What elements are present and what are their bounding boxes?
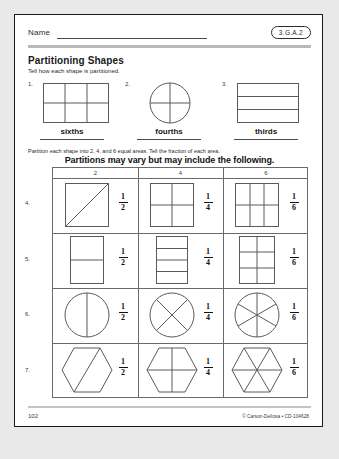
circle-x-quarters-icon xyxy=(149,292,195,338)
exercise-2-answer-rule xyxy=(137,139,201,140)
rect-4-bands-icon xyxy=(156,236,188,284)
fraction-r7-c6: 1 6 xyxy=(287,358,301,377)
hexagon-diagonal-icon xyxy=(61,347,113,393)
page-subtitle: Tell how each shape is partitioned. xyxy=(28,68,120,74)
fraction-denominator: 6 xyxy=(287,259,301,267)
exercise-3-number: 3. xyxy=(222,81,227,87)
exercise-1-answer: sixths xyxy=(28,127,116,136)
standard-badge: 3.G.A.2 xyxy=(271,26,311,39)
fraction-denominator: 4 xyxy=(201,259,215,267)
rectangle-3-bands-icon xyxy=(237,83,299,123)
fraction-denominator: 4 xyxy=(201,369,215,377)
column-header-4: 4 xyxy=(138,168,223,178)
fraction-numerator: 1 xyxy=(201,303,215,311)
column-header-6: 6 xyxy=(223,168,309,178)
exercise-1-number: 1. xyxy=(28,81,33,87)
page-number: 102 xyxy=(28,413,38,419)
cell-r4-c4: 1 4 xyxy=(138,178,223,233)
fraction-r4-c6: 1 6 xyxy=(287,193,301,212)
cell-r4-c2: 1 2 xyxy=(53,178,138,233)
header-divider xyxy=(28,45,311,48)
name-row: Name 3.G.A.2 xyxy=(28,28,311,42)
fraction-numerator: 1 xyxy=(201,248,215,256)
circle-halves-icon xyxy=(64,292,110,338)
fraction-numerator: 1 xyxy=(116,193,130,201)
fraction-numerator: 1 xyxy=(287,358,301,366)
fraction-r7-c2: 1 2 xyxy=(116,358,130,377)
table-row-5-number: 5. xyxy=(25,256,30,262)
fraction-denominator: 2 xyxy=(116,204,130,212)
cell-r7-c2: 1 2 xyxy=(53,343,138,397)
page-title: Partitioning Shapes xyxy=(28,55,124,66)
exercise-2: 2. fourths xyxy=(125,81,213,143)
exercise-1-answer-rule xyxy=(40,139,104,140)
answer-note: Partitions may vary but may include the … xyxy=(28,155,311,165)
fraction-numerator: 1 xyxy=(116,248,130,256)
exercise-3-shape-rectangle-3-bands xyxy=(237,83,299,123)
column-header-2: 2 xyxy=(53,168,138,178)
circle-quarters-icon xyxy=(149,82,191,124)
rect-2x3-grid-icon xyxy=(239,236,275,284)
exercise-3-answer: thirds xyxy=(222,127,310,136)
exercise-2-answer: fourths xyxy=(125,127,213,136)
square-3x2-grid-icon xyxy=(235,183,279,227)
fraction-denominator: 6 xyxy=(287,369,301,377)
fraction-denominator: 2 xyxy=(116,369,130,377)
square-diagonal-icon xyxy=(65,183,109,227)
circle-sixths-icon xyxy=(234,292,280,338)
cell-r7-c6: 1 6 xyxy=(223,343,309,397)
fraction-denominator: 2 xyxy=(116,314,130,322)
square-quadrants-icon xyxy=(150,183,194,227)
fraction-numerator: 1 xyxy=(201,358,215,366)
copyright-notice: © Carson-Dellosa • CD-104628 xyxy=(242,414,309,419)
fraction-r7-c4: 1 4 xyxy=(201,358,215,377)
table-row-7-number: 7. xyxy=(25,367,30,373)
name-label: Name xyxy=(28,28,50,37)
hexagon-sixths-icon xyxy=(231,347,283,393)
fraction-numerator: 1 xyxy=(116,358,130,366)
fraction-numerator: 1 xyxy=(287,303,301,311)
fraction-numerator: 1 xyxy=(287,193,301,201)
fraction-r5-c4: 1 4 xyxy=(201,248,215,267)
fraction-r6-c4: 1 4 xyxy=(201,303,215,322)
cell-r5-c6: 1 6 xyxy=(223,233,309,288)
exercise-2-number: 2. xyxy=(125,81,130,87)
cell-r5-c2: 1 2 xyxy=(53,233,138,288)
exercise-1: 1. sixths xyxy=(28,81,116,143)
fraction-denominator: 2 xyxy=(116,259,130,267)
rectangle-3x2-icon xyxy=(43,83,109,123)
cell-r7-c4: 1 4 xyxy=(138,343,223,397)
fraction-denominator: 6 xyxy=(287,204,301,212)
fraction-r6-c2: 1 2 xyxy=(116,303,130,322)
exercise-2-shape-circle-quarters xyxy=(149,82,191,124)
fraction-numerator: 1 xyxy=(116,303,130,311)
fraction-numerator: 1 xyxy=(201,193,215,201)
hexagon-cross-icon xyxy=(146,347,198,393)
worksheet-page: Name 3.G.A.2 Partitioning Shapes Tell ho… xyxy=(14,14,323,427)
fraction-denominator: 6 xyxy=(287,314,301,322)
fraction-r4-c2: 1 2 xyxy=(116,193,130,212)
partition-table: 2 4 6 1 2 xyxy=(52,167,308,398)
fraction-numerator: 1 xyxy=(287,248,301,256)
fraction-r5-c2: 1 2 xyxy=(116,248,130,267)
table-instruction: Partition each shape into 2, 4, and 6 eq… xyxy=(28,148,220,154)
fraction-denominator: 4 xyxy=(201,314,215,322)
fraction-r4-c4: 1 4 xyxy=(201,193,215,212)
exercise-3: 3. thirds xyxy=(222,81,310,143)
table-row-6-number: 6. xyxy=(25,311,30,317)
exercise-1-shape-rectangle-3x2 xyxy=(43,83,109,123)
fraction-r5-c6: 1 6 xyxy=(287,248,301,267)
cell-r4-c6: 1 6 xyxy=(223,178,309,233)
cell-r5-c4: 1 4 xyxy=(138,233,223,288)
cell-r6-c4: 1 4 xyxy=(138,288,223,343)
footer-divider xyxy=(28,406,311,408)
fraction-denominator: 4 xyxy=(201,204,215,212)
rect-2-bands-icon xyxy=(70,236,104,284)
cell-r6-c2: 1 2 xyxy=(53,288,138,343)
name-write-line[interactable] xyxy=(57,38,207,39)
exercise-3-answer-rule xyxy=(234,139,298,140)
cell-r6-c6: 1 6 xyxy=(223,288,309,343)
table-row-4-number: 4. xyxy=(25,200,30,206)
fraction-r6-c6: 1 6 xyxy=(287,303,301,322)
